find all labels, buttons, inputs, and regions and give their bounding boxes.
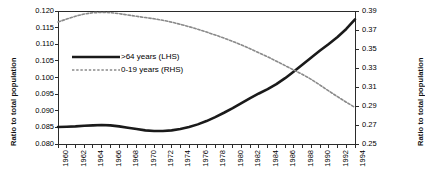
legend-label-1: >64 years (LHS): [121, 52, 179, 61]
plot-area: [0, 0, 425, 179]
chart-figure: Ratio to total population Ratio to total…: [0, 0, 425, 179]
series-line-1: [58, 19, 355, 131]
series-line-2: [58, 12, 355, 107]
legend-label-2: 0-19 years (RHS): [121, 65, 183, 74]
